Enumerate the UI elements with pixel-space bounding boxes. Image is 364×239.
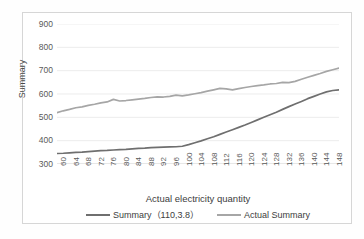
y-tick-label: 300 xyxy=(19,160,53,169)
x-tick-label: 68 xyxy=(85,157,93,166)
x-tick-label: 60 xyxy=(60,157,68,166)
x-tick-label: 92 xyxy=(160,157,168,166)
legend-item-1[interactable]: Summary（110,3.8） xyxy=(86,208,199,221)
y-tick-label: 700 xyxy=(19,66,53,75)
x-tick-label: 144 xyxy=(323,153,331,166)
chart-svg xyxy=(57,24,339,164)
legend-swatch-icon xyxy=(86,214,110,216)
x-tick-label: 64 xyxy=(73,157,81,166)
x-tick-label: 140 xyxy=(311,153,319,166)
x-tick-label: 72 xyxy=(98,157,106,166)
x-tick-label: 80 xyxy=(123,157,131,166)
x-tick-label: 120 xyxy=(248,153,256,166)
y-tick-label: 900 xyxy=(19,20,53,29)
x-tick-label: 112 xyxy=(223,153,231,166)
x-tick-label: 108 xyxy=(211,153,219,166)
x-tick-label: 88 xyxy=(148,157,156,166)
x-axis-title: Actual electricity quantity xyxy=(57,193,339,204)
x-axis-tick-labels: 6064687276808488929610010410811211612012… xyxy=(57,166,339,192)
legend-item-2[interactable]: Actual Summary xyxy=(217,210,310,220)
series-line-2 xyxy=(57,68,339,113)
chart-legend: Summary（110,3.8）Actual Summary xyxy=(57,208,339,221)
y-tick-label: 600 xyxy=(19,90,53,99)
x-tick-label: 116 xyxy=(236,153,244,166)
chart-figure: Summary 300400500600700800900 6064687276… xyxy=(0,0,364,239)
series-line-1 xyxy=(57,90,339,154)
chart-plot-area xyxy=(57,24,339,164)
legend-swatch-icon xyxy=(217,214,241,216)
y-tick-label: 400 xyxy=(19,136,53,145)
y-tick-label: 500 xyxy=(19,113,53,122)
x-tick-label: 100 xyxy=(186,153,194,166)
x-tick-label: 124 xyxy=(261,153,269,166)
y-axis-tick-labels: 300400500600700800900 xyxy=(19,24,53,164)
x-tick-label: 96 xyxy=(173,157,181,166)
x-tick-label: 84 xyxy=(135,157,143,166)
x-tick-label: 148 xyxy=(336,153,344,166)
x-tick-label: 76 xyxy=(110,157,118,166)
x-tick-label: 132 xyxy=(286,153,294,166)
x-tick-label: 136 xyxy=(298,153,306,166)
y-tick-label: 800 xyxy=(19,43,53,52)
legend-label: Summary（110,3.8） xyxy=(113,208,199,221)
x-tick-label: 104 xyxy=(198,153,206,166)
x-tick-label: 128 xyxy=(273,153,281,166)
legend-label: Actual Summary xyxy=(244,210,310,220)
